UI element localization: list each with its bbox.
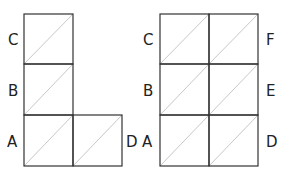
label-e-right: E xyxy=(266,82,275,100)
label-b-left: B xyxy=(8,82,18,100)
diagram-canvas: C B A D C B A F E D xyxy=(0,0,290,174)
rectangle-figure: C B A F E D xyxy=(142,14,278,166)
label-b-right: B xyxy=(143,82,153,100)
label-a-right: A xyxy=(142,133,153,151)
label-c-right: C xyxy=(143,31,153,49)
label-d-right: D xyxy=(266,133,278,151)
l-shape-figure: C B A D xyxy=(7,14,138,166)
label-c-left: C xyxy=(8,31,18,49)
cell-borders xyxy=(160,14,258,166)
label-a-left: A xyxy=(7,133,18,151)
label-d-left: D xyxy=(126,133,138,151)
label-f-right: F xyxy=(266,31,275,49)
cell-borders xyxy=(24,14,122,166)
